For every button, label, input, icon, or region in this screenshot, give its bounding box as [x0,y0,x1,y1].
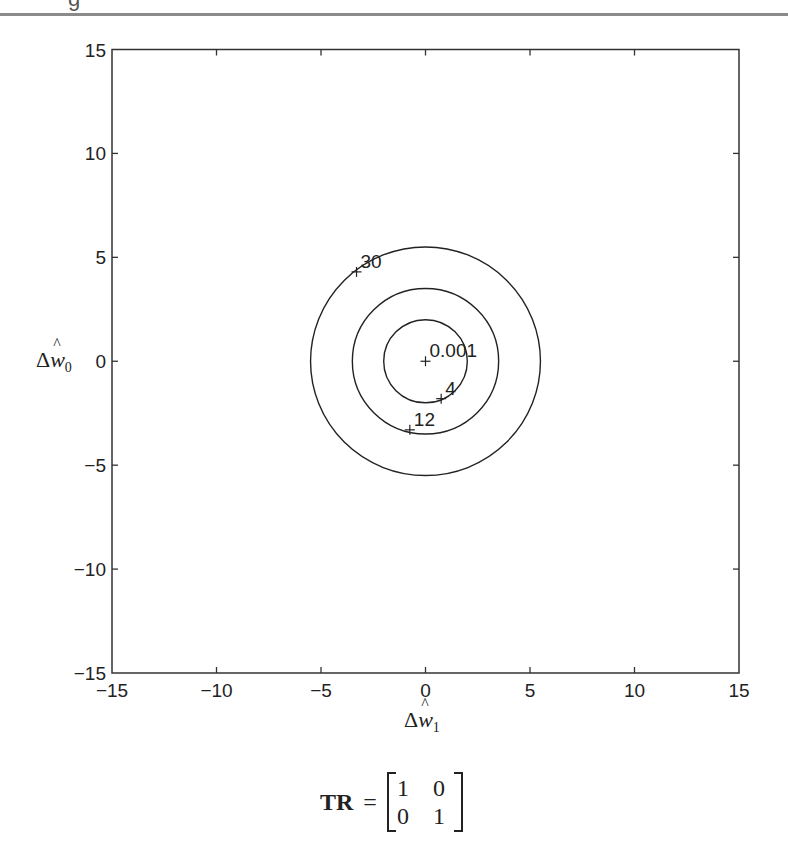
matrix-name: TR [320,789,353,816]
y-tick-label: −15 [74,663,106,684]
tick-labels: −15−10−5051015−15−10−5051015 [74,40,750,702]
x-axis-label: Δw1 [404,707,440,736]
y-tick-label: 10 [85,143,106,164]
x-tick-label: −10 [200,680,232,701]
contour-label: 0.001 [430,340,478,361]
contour-label: 30 [361,251,382,272]
matrix-cell: 1 [433,802,453,830]
y-tick-label: 5 [95,247,106,268]
matrix-cell: 0 [433,774,453,802]
contour-markers: 0.00141230 [352,251,478,435]
y-tick-label: 0 [95,351,106,372]
matrix-cell: 1 [397,774,433,802]
x-tick-label: 10 [624,680,645,701]
contour-label: 4 [445,378,456,399]
y-axis-label: Δw0 [36,347,72,376]
x-tick-label: −5 [310,680,332,701]
equals-sign: = [363,789,377,816]
y-tick-label: −5 [84,455,106,476]
transform-matrix-caption: TR = 1 0 0 1 [320,772,463,832]
x-tick-label: 15 [728,680,749,701]
x-tick-label: 5 [525,680,536,701]
matrix: 1 0 0 1 [387,772,463,832]
y-tick-label: −10 [74,559,106,580]
y-tick-label: 15 [85,40,106,61]
contour-chart: −15−10−5051015−15−10−5051015 0.00141230 [0,0,788,863]
matrix-cell: 0 [397,802,433,830]
contour-label: 12 [414,409,435,430]
